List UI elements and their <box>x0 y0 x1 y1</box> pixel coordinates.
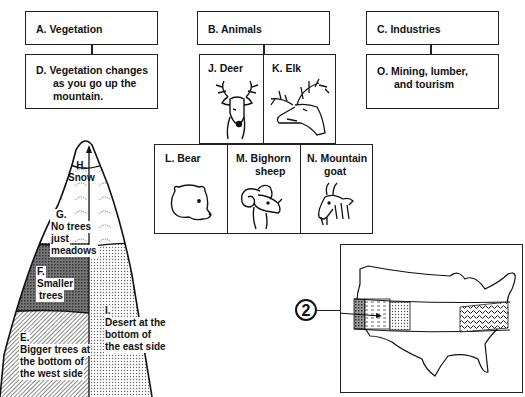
marker-2-label: 2 <box>302 302 311 319</box>
vegetation-box: A. Vegetation <box>25 11 158 45</box>
vegetation-detail-line-1: D. Vegetation changes <box>36 64 148 77</box>
bear-label: L. Bear <box>165 152 227 165</box>
bear-box: L. Bear <box>154 144 228 234</box>
zone-e-label: E. Bigger trees at the bottom of the wes… <box>19 332 91 380</box>
mountain-goat-icon <box>313 181 359 231</box>
industries-box: C. Industries <box>366 11 499 45</box>
vegetation-detail-box: D. Vegetation changes as you go up the m… <box>25 54 158 109</box>
mountain-goat-box: N. Mountain goat <box>300 144 373 234</box>
mountain-goat-label-1: N. Mountain <box>307 152 367 165</box>
marker-2-leader <box>317 310 340 311</box>
zone-i-label: I. Desert at the bottom of the east side <box>104 305 167 353</box>
deer-icon <box>210 77 264 141</box>
marker-2-circle: 2 <box>295 299 317 321</box>
vegetation-detail-line-2: as you go up the <box>36 77 148 90</box>
industries-detail-box: O. Mining, lumber, and tourism <box>366 54 499 109</box>
bighorn-sheep-label-1: M. Bighorn <box>236 152 291 165</box>
bighorn-sheep-icon <box>238 181 288 231</box>
industries-label: C. Industries <box>377 23 441 36</box>
mountain-goat-label-2: goat <box>307 165 367 178</box>
us-map <box>340 244 523 393</box>
deer-box: J. Deer <box>199 54 273 144</box>
animals-label: B. Animals <box>208 23 262 36</box>
vegetation-detail-line-3: mountain. <box>36 90 148 103</box>
zone-f-label: F. Smaller trees <box>36 266 74 302</box>
industries-detail-line-1: O. Mining, lumber, <box>377 65 468 78</box>
bear-icon <box>169 183 213 223</box>
elk-box: K. Elk <box>263 54 336 144</box>
zone-g-label: G. No trees just meadows <box>50 209 98 257</box>
elk-icon <box>267 77 333 139</box>
bighorn-sheep-box: M. Bighorn sheep <box>227 144 301 234</box>
bighorn-sheep-label-2: sheep <box>236 165 291 178</box>
vegetation-label: A. Vegetation <box>36 23 103 36</box>
elk-label: K. Elk <box>272 62 335 75</box>
zone-h-label: H. Snow <box>68 160 95 184</box>
animals-box: B. Animals <box>197 11 330 45</box>
industries-detail-line-2: and tourism <box>377 78 468 91</box>
